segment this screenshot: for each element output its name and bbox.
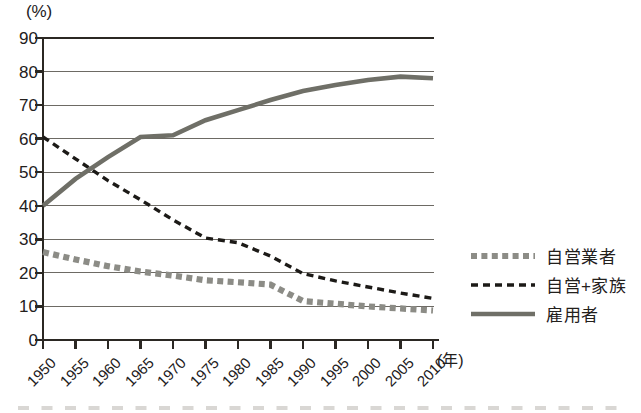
artifact-mark [488, 406, 499, 410]
artifact-mark [371, 406, 382, 410]
artifact-mark [418, 406, 429, 410]
artifact-mark [206, 406, 217, 410]
legend-label: 自営業者 [546, 243, 616, 268]
legend-label: 自営+家族 [546, 272, 626, 297]
artifact-mark [136, 406, 147, 410]
artifact-mark [230, 406, 241, 410]
artifact-mark [582, 406, 593, 410]
artifact-mark [441, 406, 452, 410]
legend-item: 自営業者 [470, 241, 638, 270]
y-gridlines [35, 38, 434, 340]
legend-label: 雇用者 [546, 301, 599, 326]
axis-lines [35, 37, 439, 341]
artifact-mark [65, 406, 76, 410]
data-series-line [43, 252, 433, 310]
legend-swatch [470, 249, 536, 263]
artifact-mark [159, 406, 170, 410]
artifact-mark [300, 406, 311, 410]
artifact-mark [394, 406, 405, 410]
artifact-mark [347, 406, 358, 410]
artifact-mark [89, 406, 100, 410]
legend-item: 雇用者 [470, 299, 638, 328]
page-bottom-artifact [0, 403, 641, 413]
legend-item: 自営+家族 [470, 270, 638, 299]
artifact-mark [559, 406, 570, 410]
artifact-mark [253, 406, 264, 410]
legend-swatch [470, 278, 536, 292]
x-axis-unit-label: (年) [437, 347, 464, 371]
artifact-mark [277, 406, 288, 410]
artifact-mark [535, 406, 546, 410]
artifact-mark [324, 406, 335, 410]
artifact-mark [183, 406, 194, 410]
x-axis-ticks [43, 340, 433, 349]
artifact-mark [112, 406, 123, 410]
legend-swatch [470, 307, 536, 321]
chart-legend: 自営業者自営+家族雇用者 [470, 241, 638, 328]
artifact-mark [606, 406, 617, 410]
chart-plot-area [0, 0, 641, 413]
data-series-layer [43, 77, 433, 311]
artifact-mark [465, 406, 476, 410]
artifact-mark [18, 406, 29, 410]
chart-figure: (%) 0102030405060708090 1950195519601965… [0, 0, 641, 413]
data-series-line [43, 77, 433, 206]
artifact-mark [512, 406, 523, 410]
artifact-mark [42, 406, 53, 410]
